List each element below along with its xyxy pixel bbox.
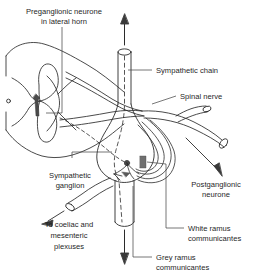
label-white-ramus-line2: communicantes [188, 234, 241, 243]
label-white-ramus-line1: White ramus [188, 224, 231, 233]
grey-ramus-origin-marker [140, 156, 146, 168]
label-postganglionic-line2: neurone [202, 190, 230, 199]
anatomical-diagram: Preganglionic neurone in lateral horn Sy… [0, 0, 256, 275]
label-spinal-nerve: Spinal nerve [180, 92, 222, 101]
label-grey-ramus-line1: Grey ramus [156, 253, 196, 262]
label-coeliac-line1: To coeliac and [45, 220, 94, 229]
label-sympathetic-chain: Sympathetic chain [156, 66, 218, 75]
label-grey-ramus-line2: communicantes [156, 263, 209, 272]
label-preganglionic-line2: in lateral horn [41, 17, 87, 26]
label-sympathetic-ganglion-line1: Sympathetic [49, 171, 91, 180]
label-preganglionic-line1: Preganglionic neurone [26, 7, 102, 16]
diagram-canvas: Preganglionic neurone in lateral horn Sy… [0, 0, 256, 275]
label-postganglionic-line1: Postganglionic [191, 180, 241, 189]
label-coeliac-line2: mesenteric [50, 231, 87, 240]
label-coeliac-line3: plexuses [54, 242, 84, 251]
label-sympathetic-ganglion-line2: ganglion [56, 181, 85, 190]
